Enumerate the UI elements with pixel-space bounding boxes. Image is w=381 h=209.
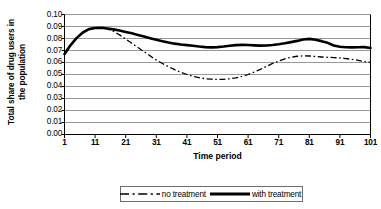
x-tick-label: 21 xyxy=(110,138,142,147)
legend-label-no-treatment: no treatment xyxy=(161,190,209,199)
legend-swatch-solid-icon xyxy=(209,189,251,199)
chart-legend: no treatment with treatment xyxy=(120,186,303,202)
x-tick-label: 61 xyxy=(232,138,264,147)
legend-item-no-treatment: no treatment xyxy=(119,187,209,201)
x-tick-label: 71 xyxy=(263,138,295,147)
x-tick-label: 31 xyxy=(140,138,172,147)
legend-label-with-treatment: with treatment xyxy=(251,190,304,199)
x-tick-label: 11 xyxy=(79,138,111,147)
gridlines xyxy=(65,15,371,123)
x-axis-title: Time period xyxy=(64,151,371,161)
x-tick-label: 51 xyxy=(202,138,234,147)
drug-users-line-chart: Total share of drug users in the populat… xyxy=(0,0,381,209)
legend-item-with-treatment: with treatment xyxy=(209,187,304,201)
x-tick-label: 81 xyxy=(293,138,325,147)
legend-swatch-dash-dot-icon xyxy=(119,189,161,199)
x-tick-label: 101 xyxy=(355,138,381,147)
x-tick-label: 41 xyxy=(171,138,203,147)
plot-area xyxy=(0,0,381,209)
x-tick-label: 91 xyxy=(324,138,356,147)
data-series-group xyxy=(65,28,371,80)
x-tick-label: 1 xyxy=(49,138,81,147)
